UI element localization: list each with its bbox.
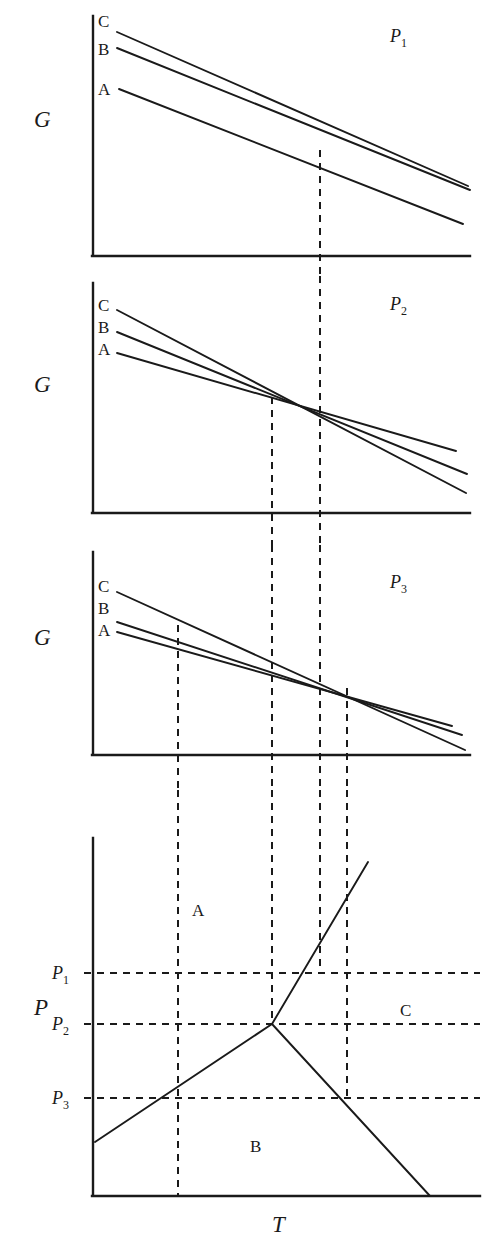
phase-boundary-a-b [95, 1024, 272, 1142]
panel-p3-y-axis-label: G [34, 625, 51, 650]
panel-p2-y-axis-label: G [34, 372, 51, 397]
panel-p3: C B A P3 G [34, 545, 470, 790]
panel-p2-curve-a [117, 353, 456, 451]
panel-p3-tag: P3 [389, 572, 407, 596]
panel-p1-tag: P1 [389, 26, 407, 50]
phase-region-label-a: A [192, 901, 205, 920]
phase-diagram-tick-p3: P3 [51, 1088, 69, 1112]
panel-p2-tag: P2 [389, 294, 407, 318]
phase-boundary-b-c [272, 1024, 430, 1196]
panel-p2-curve-c [117, 310, 466, 493]
panel-p1-label-b: B [98, 40, 109, 59]
panel-phase-diagram: P1 P2 P3 A B C P T [33, 790, 480, 1237]
phase-diagram-x-axis-label: T [272, 1212, 287, 1237]
panel-p3-label-b: B [98, 599, 109, 618]
panel-p1-y-axis-label: G [34, 107, 51, 132]
panel-p3-curve-b [117, 622, 462, 735]
phase-diagram-axes [92, 838, 480, 1196]
panel-p3-curve-c [117, 592, 465, 750]
panel-p2: C B A P2 G [34, 276, 470, 545]
panel-p2-label-a: A [98, 340, 111, 359]
panel-p1-label-c: C [98, 12, 109, 31]
phase-region-label-c: C [400, 1001, 411, 1020]
panel-p1-axes [92, 16, 470, 256]
panel-p1-curve-b [117, 48, 470, 190]
phase-diagram-tick-p2: P2 [51, 1014, 69, 1038]
phase-diagram-tick-p1: P1 [51, 963, 69, 987]
thermodynamics-figure: C B A P1 G C B A P2 G C B A [0, 0, 497, 1245]
phase-region-label-b: B [250, 1137, 261, 1156]
panel-p3-label-c: C [98, 577, 109, 596]
phase-diagram-y-axis-label: P [33, 995, 48, 1020]
panel-p2-label-c: C [98, 296, 109, 315]
panel-p3-axes [92, 552, 470, 755]
panel-p3-curve-a [117, 632, 452, 726]
panel-p2-label-b: B [98, 318, 109, 337]
panel-p3-label-a: A [98, 621, 111, 640]
panel-p1: C B A P1 G [34, 12, 470, 276]
panel-p1-label-a: A [98, 80, 111, 99]
